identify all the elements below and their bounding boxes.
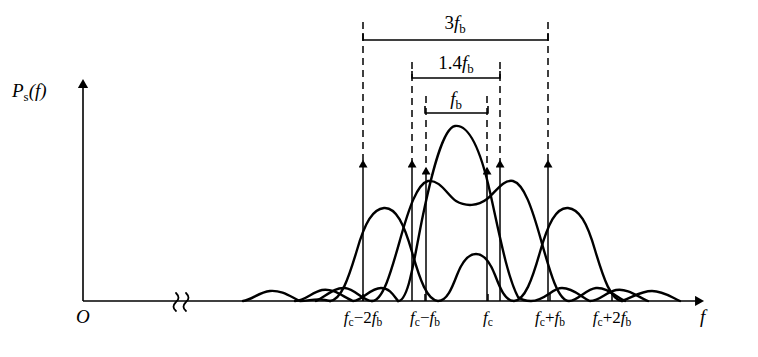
tick-label-fc-2fb: fc−2fb — [344, 308, 382, 329]
curve-msk-center-peak — [398, 126, 648, 301]
origin-label: O — [76, 306, 90, 328]
spectrum-plot — [0, 0, 758, 357]
y-axis-label-main: P — [12, 80, 24, 101]
bracket-label-14fb: 1.4fb — [438, 52, 473, 77]
tick-label-fc-fb: fc−fb — [410, 308, 440, 329]
y-axis-label-arg: (f) — [29, 80, 47, 101]
curve-wide-sidelobes — [330, 208, 622, 301]
bracket-label-fb: fb — [450, 88, 462, 113]
bracket-label-3fb: 3fb — [444, 12, 465, 37]
axis-break-icon — [174, 293, 189, 311]
tick-label-fc+fb: fc+fb — [535, 308, 565, 329]
x-axis-label: f — [700, 306, 705, 328]
tick-label-fc: fc — [483, 308, 493, 329]
figure-canvas: Ps(f) O f fc−2fb fc−fb fc fc+fb fc+2fb 3… — [0, 0, 758, 357]
y-axis-label: Ps(f) — [12, 80, 47, 105]
tick-label-fc+2fb: fc+2fb — [593, 308, 631, 329]
